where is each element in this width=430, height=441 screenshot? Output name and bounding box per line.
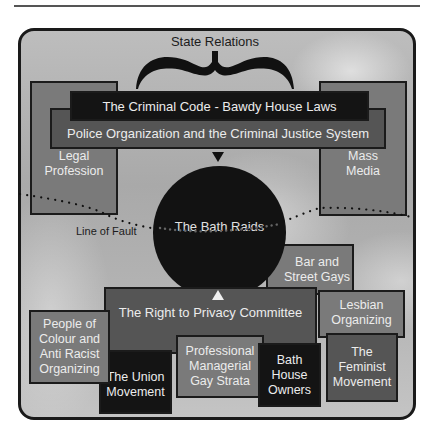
professional-managerial-label: Professional Managerial Gay Strata	[178, 344, 262, 389]
people-of-colour-label: People of Colour and Anti Racist Organiz…	[34, 317, 106, 377]
bath-house-owners-label: Bath House Owners	[266, 353, 314, 398]
feminist-movement-box: The Feminist Movement	[326, 333, 398, 402]
people-of-colour-box: People of Colour and Anti Racist Organiz…	[29, 310, 110, 384]
arrow-up-icon	[212, 290, 224, 300]
bath-house-owners-box: Bath House Owners	[258, 343, 321, 407]
line-of-fault-label: Line of Fault	[76, 225, 137, 237]
feminist-movement-label: The Feminist Movement	[331, 345, 393, 390]
union-movement-label: The Union Movement	[105, 370, 167, 400]
lesbian-organizing-box: Lesbian Organizing	[318, 290, 405, 338]
professional-managerial-box: Professional Managerial Gay Strata	[176, 335, 264, 398]
right-to-privacy-committee-label: The Right to Privacy Committee	[119, 305, 303, 320]
lesbian-organizing-label: Lesbian Organizing	[326, 298, 398, 328]
